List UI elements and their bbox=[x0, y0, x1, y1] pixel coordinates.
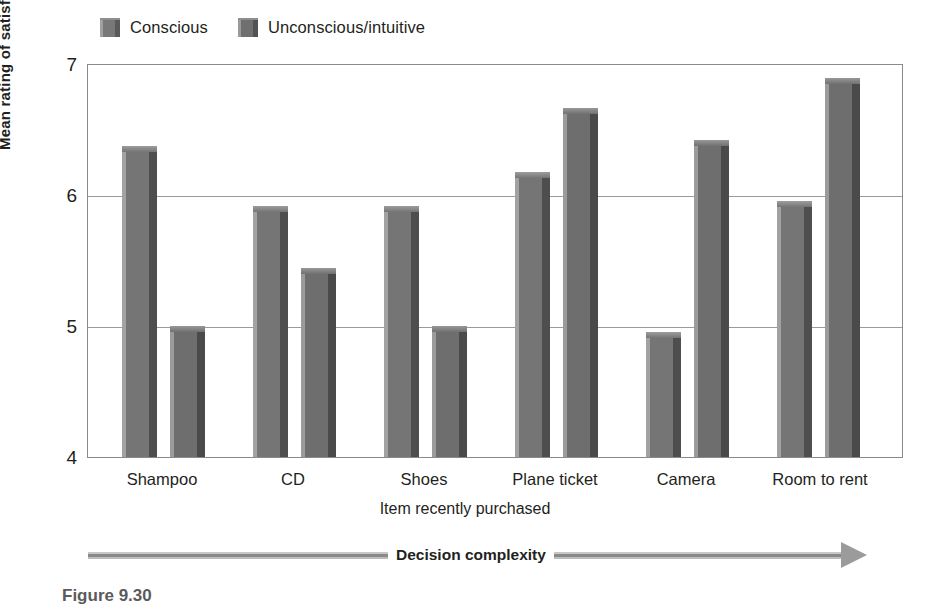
bar-group-shampoo bbox=[122, 146, 205, 457]
bar-front-face bbox=[384, 212, 419, 457]
x-category-label-camera: Camera bbox=[657, 470, 716, 489]
bar-front-face bbox=[122, 152, 157, 457]
x-category-label-room-to-rent: Room to rent bbox=[772, 470, 867, 489]
legend-item-unconscious: Unconscious/intuitive bbox=[238, 18, 425, 37]
bar-front-face bbox=[563, 114, 598, 457]
x-axis-category-labels: Shampoo CD Shoes Plane ticket Camera Roo… bbox=[87, 470, 903, 492]
x-category-label-plane-ticket: Plane ticket bbox=[512, 470, 597, 489]
chart-legend: Conscious Unconscious/intuitive bbox=[100, 12, 425, 42]
arrow-head-icon bbox=[841, 542, 867, 568]
y-axis-title: Mean rating of satisfaction bbox=[0, 0, 13, 150]
legend-swatch-conscious bbox=[100, 18, 120, 37]
bar-plane-ticket-unconscious bbox=[563, 108, 598, 457]
bar-room-to-rent-unconscious bbox=[825, 78, 860, 457]
bar-shampoo-unconscious bbox=[170, 326, 205, 457]
bar-front-face bbox=[253, 212, 288, 457]
bar-front-face bbox=[825, 84, 860, 457]
bar-cd-unconscious bbox=[301, 268, 336, 458]
decision-complexity-label: Decision complexity bbox=[388, 546, 554, 564]
x-axis-title: Item recently purchased bbox=[0, 500, 930, 518]
y-tick-label-7: 7 bbox=[55, 54, 77, 76]
bar-group-plane-ticket bbox=[515, 108, 598, 457]
bar-plane-ticket-conscious bbox=[515, 172, 550, 457]
x-category-label-cd: CD bbox=[281, 470, 305, 489]
bar-shoes-conscious bbox=[384, 206, 419, 457]
y-tick-label-6: 6 bbox=[55, 185, 77, 207]
legend-label-unconscious: Unconscious/intuitive bbox=[268, 18, 425, 37]
figure-caption: Figure 9.30 bbox=[62, 586, 152, 604]
legend-swatch-unconscious bbox=[238, 18, 258, 37]
plot-area bbox=[87, 64, 903, 458]
arrow-line-right bbox=[554, 552, 842, 559]
bar-shampoo-conscious bbox=[122, 146, 157, 457]
bar-room-to-rent-conscious bbox=[777, 201, 812, 457]
bar-group-shoes bbox=[384, 206, 467, 457]
y-tick-label-5: 5 bbox=[55, 316, 77, 338]
bar-shoes-unconscious bbox=[432, 326, 467, 457]
bar-front-face bbox=[432, 332, 467, 457]
bar-front-face bbox=[515, 178, 550, 457]
bar-cd-conscious bbox=[253, 206, 288, 457]
bar-group-camera bbox=[646, 140, 729, 458]
bar-group-room-to-rent bbox=[777, 78, 860, 457]
x-category-label-shoes: Shoes bbox=[401, 470, 448, 489]
bar-front-face bbox=[301, 274, 336, 458]
legend-item-conscious: Conscious bbox=[100, 18, 208, 37]
bar-front-face bbox=[646, 338, 681, 457]
bar-front-face bbox=[694, 146, 729, 458]
arrow-line-left bbox=[88, 552, 388, 559]
bar-front-face bbox=[170, 332, 205, 457]
y-tick-label-4: 4 bbox=[55, 447, 77, 469]
decision-complexity-annotation: Decision complexity bbox=[88, 540, 888, 570]
bar-front-face bbox=[777, 207, 812, 457]
bar-group-cd bbox=[253, 206, 336, 457]
legend-label-conscious: Conscious bbox=[130, 18, 208, 37]
bar-camera-unconscious bbox=[694, 140, 729, 458]
bar-camera-conscious bbox=[646, 332, 681, 457]
x-category-label-shampoo: Shampoo bbox=[127, 470, 198, 489]
